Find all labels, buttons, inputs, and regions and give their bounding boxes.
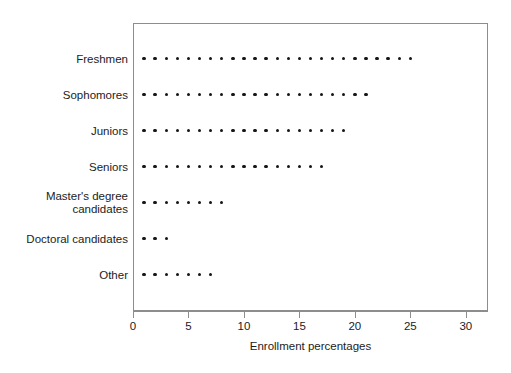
data-dot	[276, 93, 279, 96]
data-dot	[220, 93, 223, 96]
data-dot	[153, 57, 156, 60]
x-tick-label: 5	[185, 320, 191, 333]
x-tick-label: 30	[459, 320, 472, 333]
data-dot	[142, 273, 145, 276]
data-dot	[142, 201, 145, 204]
data-dot	[264, 129, 267, 132]
data-dot	[253, 129, 256, 132]
data-dot	[153, 273, 156, 276]
data-dot	[353, 57, 356, 60]
data-dot	[209, 129, 212, 132]
data-dot	[298, 165, 301, 168]
x-tick-label: 10	[238, 320, 251, 333]
data-dot	[187, 201, 190, 204]
data-dot	[198, 273, 201, 276]
data-dot	[153, 93, 156, 96]
data-dot	[165, 129, 168, 132]
data-dot	[231, 129, 234, 132]
data-dot	[142, 129, 145, 132]
dot-row	[133, 270, 488, 280]
x-tick-mark	[244, 311, 245, 318]
data-dot	[287, 165, 290, 168]
data-dot	[331, 129, 334, 132]
data-dot	[342, 57, 345, 60]
data-dot	[342, 93, 345, 96]
x-tick-label: 20	[348, 320, 361, 333]
x-tick-mark	[133, 311, 134, 318]
category-label: Seniors	[0, 161, 128, 174]
data-dot	[165, 165, 168, 168]
data-dot	[231, 57, 234, 60]
data-dot	[276, 57, 279, 60]
data-dot	[309, 165, 312, 168]
dot-row	[133, 54, 488, 64]
x-axis-title: Enrollment percentages	[133, 340, 488, 353]
data-dot	[386, 57, 389, 60]
data-dot	[298, 93, 301, 96]
category-label: Freshmen	[0, 53, 128, 66]
data-dot	[276, 165, 279, 168]
data-dot	[209, 273, 212, 276]
x-tick-mark	[188, 311, 189, 318]
data-dot	[264, 165, 267, 168]
dot-row	[133, 162, 488, 172]
data-dot	[165, 93, 168, 96]
data-dot	[309, 57, 312, 60]
data-dot	[187, 165, 190, 168]
x-tick-mark	[466, 311, 467, 318]
data-dot	[276, 129, 279, 132]
data-dot	[187, 57, 190, 60]
data-dot	[198, 93, 201, 96]
data-dot	[398, 57, 401, 60]
x-tick-label: 0	[130, 320, 136, 333]
data-dot	[242, 165, 245, 168]
category-label: Master's degree candidates	[0, 190, 128, 216]
data-dot	[153, 129, 156, 132]
data-dot	[176, 165, 179, 168]
category-label: Juniors	[0, 125, 128, 138]
x-tick-label: 15	[293, 320, 306, 333]
data-dot	[153, 237, 156, 240]
data-dot	[187, 273, 190, 276]
data-dot	[165, 237, 168, 240]
data-dot	[209, 57, 212, 60]
data-dot	[209, 93, 212, 96]
data-dot	[198, 57, 201, 60]
category-label: Doctoral candidates	[0, 233, 128, 246]
data-dot	[353, 93, 356, 96]
data-dot	[342, 129, 345, 132]
x-tick-mark	[299, 311, 300, 318]
data-dot	[287, 129, 290, 132]
category-label: Other	[0, 269, 128, 282]
data-dot	[142, 93, 145, 96]
data-dot	[153, 165, 156, 168]
data-dot	[253, 57, 256, 60]
data-dot	[209, 201, 212, 204]
data-dot	[264, 93, 267, 96]
data-dot	[331, 57, 334, 60]
data-dot	[176, 273, 179, 276]
data-dot	[253, 165, 256, 168]
x-axis-line	[133, 311, 488, 312]
x-tick-label: 25	[404, 320, 417, 333]
x-tick-mark	[355, 311, 356, 318]
data-dot	[176, 129, 179, 132]
data-dot	[209, 165, 212, 168]
data-dot	[220, 165, 223, 168]
data-dot	[320, 165, 323, 168]
data-dot	[165, 201, 168, 204]
data-dot	[409, 57, 412, 60]
data-dot	[142, 165, 145, 168]
dot-plot-chart: FreshmenSophomoresJuniorsSeniorsMaster's…	[0, 0, 511, 373]
data-dot	[298, 129, 301, 132]
dot-row	[133, 198, 488, 208]
data-dot	[309, 93, 312, 96]
data-dot	[198, 165, 201, 168]
data-dot	[320, 57, 323, 60]
data-dot	[309, 129, 312, 132]
data-dot	[187, 93, 190, 96]
category-axis-labels: FreshmenSophomoresJuniorsSeniorsMaster's…	[0, 23, 128, 311]
dot-row	[133, 126, 488, 136]
x-tick-mark	[410, 311, 411, 318]
data-dot	[176, 57, 179, 60]
